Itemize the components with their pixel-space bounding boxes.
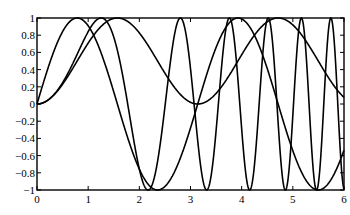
x-tick-label: 2 <box>137 193 143 205</box>
x-tick-label: 1 <box>85 193 91 205</box>
y-tick-label: −0.8 <box>15 167 35 179</box>
y-tick-label: 0.4 <box>21 64 35 76</box>
x-tick-label: 3 <box>188 193 194 205</box>
x-tick-label: 4 <box>239 193 245 205</box>
y-axis: −1−0.8−0.6−0.4−0.200.20.40.60.81 <box>15 12 344 196</box>
y-tick-label: −0.4 <box>15 132 35 144</box>
y-tick-label: −1 <box>23 184 35 196</box>
y-tick-label: 0 <box>30 98 36 110</box>
y-tick-label: 1 <box>30 12 36 24</box>
y-tick-label: −0.6 <box>15 150 35 162</box>
y-tick-label: 0.2 <box>21 81 35 93</box>
plot-lines <box>37 18 344 190</box>
y-tick-label: 0.6 <box>21 46 35 58</box>
x-tick-label: 0 <box>34 193 40 205</box>
line-chart: 0123456 −1−0.8−0.6−0.4−0.200.20.40.60.81 <box>0 0 350 215</box>
series-line-2 <box>37 18 344 104</box>
x-tick-label: 6 <box>341 193 347 205</box>
y-tick-label: 0.8 <box>21 29 35 41</box>
y-tick-label: −0.2 <box>15 115 35 127</box>
x-tick-label: 5 <box>290 193 296 205</box>
